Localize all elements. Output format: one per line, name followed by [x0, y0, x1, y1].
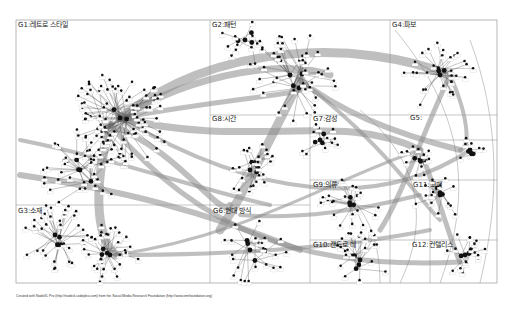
- node: [98, 115, 101, 118]
- node: [420, 165, 423, 168]
- node: [452, 93, 455, 96]
- node: [36, 249, 39, 252]
- node: [94, 238, 97, 241]
- node-label-box: [75, 137, 81, 140]
- node: [122, 155, 125, 158]
- node-label-box: [399, 154, 405, 157]
- node-label-box: [431, 67, 437, 70]
- node-label-box: [458, 159, 464, 162]
- node-label-box: [80, 242, 86, 245]
- node: [254, 62, 257, 65]
- node-label-box: [82, 190, 88, 193]
- node-label-box: [452, 216, 458, 219]
- node: [58, 201, 61, 204]
- node: [109, 134, 112, 137]
- node: [454, 213, 457, 216]
- node-label-box: [101, 145, 107, 148]
- node: [465, 137, 468, 140]
- edge: [302, 143, 322, 151]
- node: [266, 153, 269, 156]
- group-label-g12: G12:컨텔리스: [412, 240, 454, 249]
- node: [449, 91, 452, 94]
- node: [135, 132, 138, 135]
- node: [424, 88, 427, 91]
- node-label-box: [81, 104, 87, 107]
- node-label-box: [423, 91, 429, 94]
- node-label-box: [311, 134, 317, 137]
- node-label-box: [428, 204, 434, 207]
- node: [464, 76, 467, 79]
- node-label-box: [157, 133, 163, 136]
- node-label-box: [79, 90, 85, 93]
- node: [358, 279, 361, 282]
- node-label-box: [324, 140, 330, 143]
- node: [163, 140, 166, 143]
- node: [100, 163, 103, 166]
- node: [339, 264, 342, 267]
- network-graph: G1:레트로 스타일 G2:패턴 G3:소재 G4:파보 G5: G8:시간 G…: [0, 0, 510, 312]
- node: [412, 145, 415, 148]
- node-label-box: [92, 187, 98, 190]
- node-label-box: [161, 143, 167, 146]
- node-label-box: [302, 72, 308, 75]
- node-label-box: [77, 190, 83, 193]
- node-label-box: [271, 269, 277, 272]
- node: [83, 248, 86, 251]
- node-label-box: [121, 141, 127, 144]
- node: [124, 251, 127, 254]
- node: [54, 142, 57, 145]
- node: [110, 148, 113, 151]
- hub-node: [53, 233, 58, 238]
- node: [261, 48, 264, 51]
- edge: [233, 259, 255, 260]
- node: [101, 74, 104, 77]
- node-label-box: [342, 278, 348, 281]
- node: [252, 88, 255, 91]
- node: [317, 71, 320, 74]
- hub-node: [253, 258, 258, 263]
- node: [373, 243, 376, 246]
- node: [256, 42, 259, 45]
- node: [146, 156, 149, 159]
- node: [43, 182, 46, 185]
- node: [377, 206, 380, 209]
- node: [248, 147, 251, 150]
- node: [376, 243, 379, 246]
- node: [131, 155, 134, 158]
- node-label-box: [31, 228, 37, 231]
- hub-node: [249, 30, 254, 35]
- node: [450, 80, 453, 83]
- node-label-box: [256, 223, 262, 226]
- node-label-box: [103, 121, 109, 124]
- node-label-box: [368, 232, 374, 235]
- node-label-box: [464, 66, 470, 69]
- node: [103, 106, 106, 109]
- node: [96, 267, 99, 270]
- group-label-g3: G3:소재: [18, 207, 42, 215]
- node-label-box: [426, 152, 432, 155]
- node-label-box: [307, 37, 313, 40]
- node: [271, 155, 274, 158]
- node: [234, 223, 237, 226]
- node-label-box: [447, 59, 453, 62]
- node: [428, 158, 431, 161]
- node-label-box: [79, 109, 85, 112]
- node-label-box: [142, 124, 148, 127]
- node-label-box: [87, 152, 93, 155]
- node: [102, 189, 105, 192]
- node-label-box: [151, 90, 157, 93]
- node: [69, 176, 72, 179]
- hub-node: [105, 251, 110, 256]
- node: [77, 95, 80, 98]
- node: [450, 69, 453, 72]
- node-label-box: [107, 81, 113, 84]
- node-label-box: [444, 252, 450, 255]
- edge: [426, 75, 440, 89]
- node: [53, 260, 56, 263]
- node-label-box: [263, 253, 269, 256]
- node: [26, 253, 29, 256]
- node: [100, 85, 103, 88]
- node: [82, 239, 85, 242]
- hub-node: [459, 254, 464, 259]
- node-label-box: [476, 150, 482, 153]
